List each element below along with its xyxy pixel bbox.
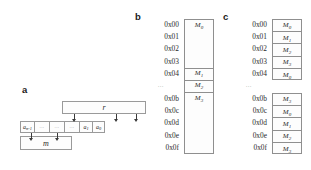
array-cell: an-1	[20, 121, 34, 133]
panel-b-ellipsis: ∙∙∙	[143, 80, 179, 92]
address-label: 0x04	[143, 68, 179, 80]
address-label: 0x00	[143, 19, 179, 31]
address-label: 0x02	[231, 43, 267, 55]
address-label: 0x0c	[231, 105, 267, 117]
address-label: 0x0b	[231, 93, 267, 105]
address-label: 0x0e	[231, 130, 267, 142]
address-label: 0x02	[143, 43, 179, 55]
panel-b-memory-column: M0M1M2M3	[184, 19, 214, 154]
address-label: 0x01	[143, 31, 179, 43]
memory-cell: M0	[273, 69, 301, 81]
memory-box-label: m	[43, 139, 49, 148]
panel-c-label: c	[223, 11, 228, 22]
memory-cell: M2	[273, 44, 301, 56]
memory-block: M2	[185, 81, 213, 93]
memory-cell: M0	[273, 20, 301, 32]
memory-block: M3	[185, 93, 213, 142]
panel-c-ellipsis: ∙∙∙	[231, 80, 267, 92]
memory-cell: M1	[273, 32, 301, 44]
memory-cell: M3	[273, 94, 301, 106]
panel-b: b 0x000x010x020x030x04 ∙∙∙ 0x0b0x0c0x0d0…	[131, 0, 223, 170]
panel-b-address-list-top: 0x000x010x020x030x04	[143, 19, 179, 80]
memory-cell: M3	[273, 143, 301, 155]
memory-cell: M1	[273, 118, 301, 130]
arrow-r-to-cell-2	[116, 114, 117, 119]
panel-c-memory-column-bottom: M3M0M1M2M3	[272, 93, 302, 154]
panel-c: c 0x000x010x020x030x04 ∙∙∙ 0x0b0x0c0x0d0…	[221, 0, 311, 170]
address-label: 0x04	[231, 68, 267, 80]
array-cell: a1	[79, 121, 92, 133]
arrow-r-to-cell-1	[74, 114, 75, 119]
panel-b-address-list-bottom: 0x0b0x0c0x0d0x0e0x0f	[143, 93, 179, 154]
register-box-label: r	[102, 103, 105, 112]
array-cell: ∙∙∙	[34, 121, 49, 133]
array-cell: ∙∙∙	[49, 121, 64, 133]
memory-cell: M2	[273, 131, 301, 143]
address-label: 0x0f	[231, 142, 267, 154]
array-cell: ∙∙∙	[64, 121, 79, 133]
panel-c-address-list-bottom: 0x0b0x0c0x0d0x0e0x0f	[231, 93, 267, 154]
address-label: 0x03	[231, 56, 267, 68]
arrow-cell-to-m-1	[31, 133, 32, 138]
address-label: 0x0d	[231, 117, 267, 129]
memory-cell: M0	[273, 106, 301, 118]
panel-c-address-list-top: 0x000x010x020x030x04	[231, 19, 267, 80]
address-label: 0x0f	[143, 142, 179, 154]
address-label: 0x0b	[143, 93, 179, 105]
memory-block: M0	[185, 20, 213, 69]
array-row: an-1∙∙∙∙∙∙∙∙∙a1a0	[20, 121, 105, 133]
address-label: 0x0d	[143, 117, 179, 129]
address-label: 0x00	[231, 19, 267, 31]
arrow-cell-to-m-2	[57, 133, 58, 138]
address-label: 0x0c	[143, 105, 179, 117]
panel-c-memory-column-top: M0M1M2M3M0	[272, 19, 302, 80]
memory-box-m: m	[20, 136, 72, 150]
address-label: 0x01	[231, 31, 267, 43]
array-cell: a0	[92, 121, 105, 133]
memory-cell: M3	[273, 57, 301, 69]
panel-a-label: a	[22, 84, 27, 95]
address-label: 0x03	[143, 56, 179, 68]
address-label: 0x0e	[143, 130, 179, 142]
memory-block: M1	[185, 69, 213, 81]
panel-b-label: b	[135, 11, 141, 22]
